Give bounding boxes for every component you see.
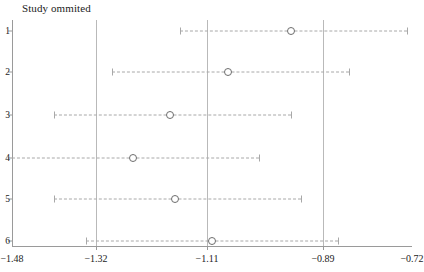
ci-row	[0, 193, 415, 205]
y-axis-line	[12, 20, 13, 246]
ci-cap-upper	[338, 238, 339, 245]
x-tick-label-3: −0.89	[311, 253, 334, 264]
page-title: Study ommited	[22, 2, 91, 14]
ci-cap-upper	[407, 28, 408, 35]
estimate-point	[171, 195, 179, 203]
estimate-point	[129, 154, 137, 162]
estimate-point	[166, 111, 174, 119]
ci-row	[0, 25, 415, 37]
ci-cap-upper	[259, 155, 260, 162]
ci-row	[0, 152, 415, 164]
estimate-point	[287, 27, 295, 35]
reference-line-2	[207, 20, 208, 246]
x-tick-label-0: −1.48	[0, 253, 23, 264]
ci-cap-upper	[301, 196, 302, 203]
reference-line-1	[96, 20, 97, 246]
x-tick-label-2: −1.11	[196, 253, 219, 264]
ci-cap-lower	[180, 28, 181, 35]
ci-row	[0, 109, 415, 121]
estimate-point	[224, 68, 232, 76]
x-tick-label-4: −0.72	[400, 253, 423, 264]
ci-row	[0, 235, 415, 247]
ci-row	[0, 66, 415, 78]
ci-cap-upper	[349, 69, 350, 76]
reference-line-3	[323, 20, 324, 246]
x-tick-label-1: −1.32	[84, 253, 107, 264]
ci-cap-lower	[112, 69, 113, 76]
ci-cap-lower	[54, 196, 55, 203]
ci-cap-upper	[291, 112, 292, 119]
ci-cap-lower	[86, 238, 87, 245]
estimate-point	[208, 237, 216, 245]
ci-cap-lower	[54, 112, 55, 119]
